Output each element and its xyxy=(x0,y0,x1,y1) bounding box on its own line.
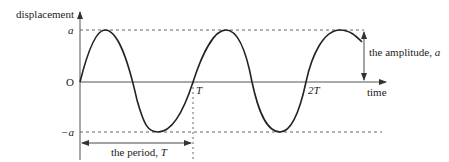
y-tick-neg-a: −a xyxy=(61,126,74,138)
x-axis-label: time xyxy=(367,86,387,98)
amplitude-label: the amplitude, a xyxy=(369,46,441,58)
period-label: the period, T xyxy=(111,146,168,158)
amplitude-label-text: the amplitude, xyxy=(369,46,435,58)
wave-diagram: displacement time O a −a T 2T the amplit… xyxy=(0,0,449,162)
period-label-symbol: T xyxy=(161,146,168,158)
x-tick-2T: 2T xyxy=(308,84,321,96)
x-tick-T: T xyxy=(196,84,203,96)
amplitude-label-symbol: a xyxy=(435,46,441,58)
sine-wave-curve xyxy=(80,30,362,132)
y-axis-label: displacement xyxy=(16,8,74,20)
origin-label: O xyxy=(66,76,74,88)
period-label-text: the period, xyxy=(111,146,161,158)
y-tick-a: a xyxy=(68,24,74,36)
diagram-canvas: displacement time O a −a T 2T the amplit… xyxy=(0,0,449,162)
